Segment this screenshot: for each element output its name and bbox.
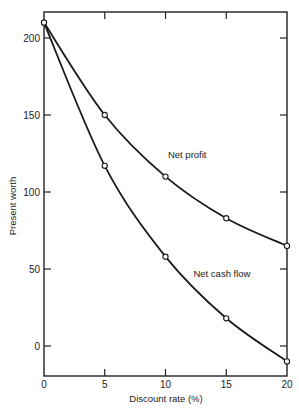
- series-label: Net profit: [168, 149, 207, 160]
- net-cash-flow-marker: [163, 254, 168, 259]
- y-tick-label: 150: [23, 110, 40, 121]
- net-cash-flow-marker: [41, 20, 46, 25]
- net-cash-flow-marker: [102, 163, 107, 168]
- plot-border: [44, 12, 287, 376]
- y-tick-label: 50: [29, 264, 41, 275]
- y-tick-label: 0: [34, 341, 40, 352]
- data-curves: [44, 23, 287, 362]
- x-tick-label: 15: [221, 379, 233, 390]
- x-tick-label: 5: [102, 379, 108, 390]
- x-axis-label: Discount rate (%): [129, 393, 202, 404]
- data-markers: [41, 20, 289, 364]
- plot-frame: [44, 12, 287, 376]
- net-profit-marker: [163, 174, 168, 179]
- net-profit-marker: [284, 243, 289, 248]
- x-tick-label: 20: [281, 379, 293, 390]
- axis-ticks: 05101520050100150200: [23, 12, 293, 390]
- chart: 05101520050100150200 Net profitNet cash …: [0, 0, 299, 411]
- net-cash-flow-marker: [284, 359, 289, 364]
- y-tick-label: 200: [23, 33, 40, 44]
- series-label: Net cash flow: [193, 268, 250, 279]
- net-profit-curve: [44, 23, 287, 246]
- x-tick-label: 0: [41, 379, 47, 390]
- y-tick-label: 100: [23, 187, 40, 198]
- net-cash-flow-marker: [224, 316, 229, 321]
- y-axis-label: Present worth: [7, 177, 18, 236]
- net-profit-marker: [224, 216, 229, 221]
- x-tick-label: 10: [160, 379, 172, 390]
- net-cash-flow-curve: [44, 23, 287, 362]
- net-profit-marker: [102, 112, 107, 117]
- series-labels: Net profitNet cash flow: [168, 149, 251, 279]
